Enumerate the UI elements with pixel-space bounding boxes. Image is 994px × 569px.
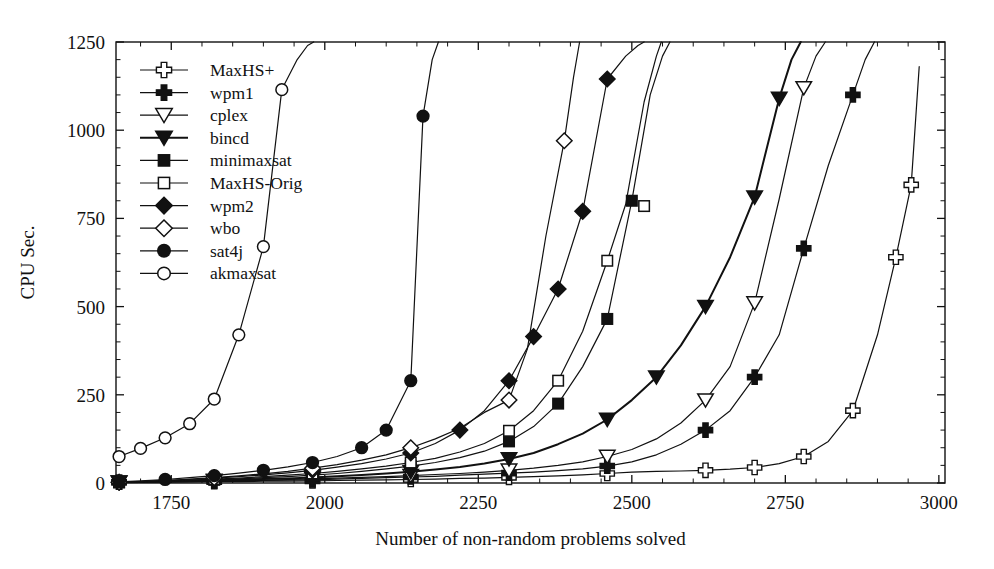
marker-square-open <box>553 375 564 386</box>
legend-label: sat4j <box>210 241 243 261</box>
marker-circle-open <box>233 329 245 341</box>
legend-label: bincd <box>210 128 249 148</box>
marker-square-filled <box>602 314 613 325</box>
y-tick-label: 1250 <box>67 32 105 53</box>
marker-circle-filled <box>113 476 125 488</box>
marker-circle-open <box>135 443 147 455</box>
x-tick-label: 1750 <box>152 492 190 513</box>
marker-square-filled <box>627 195 638 206</box>
legend-label: MaxHS-Orig <box>210 173 303 193</box>
marker-circle-filled <box>405 375 417 387</box>
marker-circle-filled <box>159 474 171 486</box>
marker-circle-filled <box>356 442 368 454</box>
x-tick-label: 3000 <box>920 492 958 513</box>
marker-circle-filled <box>158 245 171 258</box>
legend-label: wpm2 <box>210 196 254 216</box>
marker-circle-filled <box>380 424 392 436</box>
y-tick-label: 250 <box>77 385 106 406</box>
marker-circle-open <box>208 393 220 405</box>
y-tick-label: 500 <box>77 297 106 318</box>
marker-square-open <box>602 255 613 266</box>
marker-square-filled <box>504 436 515 447</box>
marker-circle-filled <box>257 464 269 476</box>
x-tick-label: 2750 <box>766 492 804 513</box>
y-tick-label: 1000 <box>67 120 105 141</box>
marker-circle-open <box>276 84 288 96</box>
legend-label: MaxHS+ <box>210 60 274 80</box>
marker-circle-open <box>158 267 171 280</box>
marker-circle-open <box>184 418 196 430</box>
marker-square-open <box>639 201 650 212</box>
marker-circle-filled <box>417 110 429 122</box>
marker-square-open <box>504 426 515 437</box>
x-tick-label: 2000 <box>306 492 344 513</box>
legend-label: minimaxsat <box>210 150 292 170</box>
legend-label: wpm1 <box>210 83 254 103</box>
cpu-time-cactus-plot: 1750200022502500275030000250500750100012… <box>0 0 994 569</box>
marker-circle-filled <box>307 457 319 469</box>
marker-circle-filled <box>208 470 220 482</box>
x-tick-label: 2500 <box>613 492 651 513</box>
y-tick-label: 0 <box>96 473 106 494</box>
legend-label: cplex <box>210 105 248 125</box>
y-tick-label: 750 <box>77 208 106 229</box>
marker-square-filled <box>158 155 169 166</box>
x-axis-title: Number of non-random problems solved <box>375 528 686 549</box>
x-tick-label: 2250 <box>459 492 497 513</box>
marker-circle-open <box>159 432 171 444</box>
legend-label: wbo <box>210 218 240 238</box>
marker-square-open <box>158 177 169 188</box>
y-axis-title: CPU Sec. <box>17 226 38 300</box>
marker-circle-open <box>113 451 125 463</box>
legend-label: akmaxsat <box>210 263 276 283</box>
marker-square-filled <box>553 398 564 409</box>
chart-root: 1750200022502500275030000250500750100012… <box>0 0 994 569</box>
marker-circle-open <box>257 241 269 253</box>
